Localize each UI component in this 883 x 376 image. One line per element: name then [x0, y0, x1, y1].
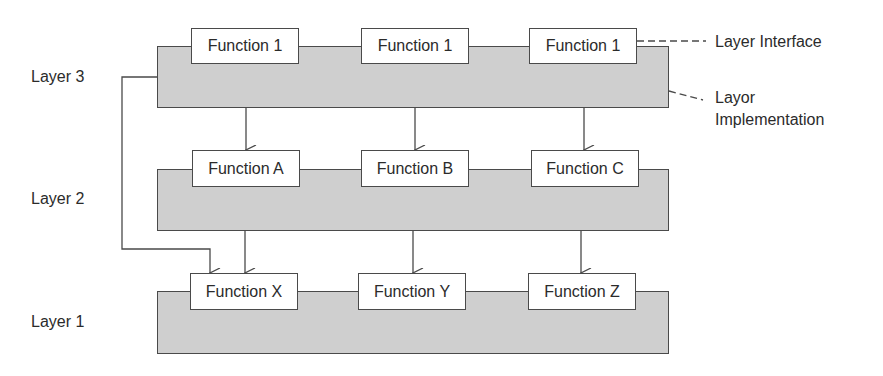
layer-3-label: Layer 3: [31, 68, 84, 86]
layer-3-function-box: Function 1: [529, 28, 637, 64]
function-z-box: Function Z: [528, 273, 636, 310]
layer-interface-annotation: Layer Interface: [715, 31, 822, 53]
function-b-box: Function B: [361, 150, 469, 187]
layer-1-label: Layer 1: [31, 313, 84, 331]
function-x-box: Function X: [190, 273, 298, 310]
implementation-leader: [669, 91, 703, 100]
implementation-annotation-line2: Implementation: [715, 109, 824, 131]
layer-3-function-box: Function 1: [361, 28, 469, 64]
function-y-box: Function Y: [358, 273, 466, 310]
function-c-box: Function C: [531, 150, 639, 187]
layer-3-function-box: Function 1: [191, 28, 299, 64]
layer-2-label: Layer 2: [31, 190, 84, 208]
function-a-box: Function A: [192, 150, 300, 187]
layer-implementation-annotation: Layor Implementation: [715, 87, 824, 131]
implementation-annotation-line1: Layor: [715, 87, 824, 109]
